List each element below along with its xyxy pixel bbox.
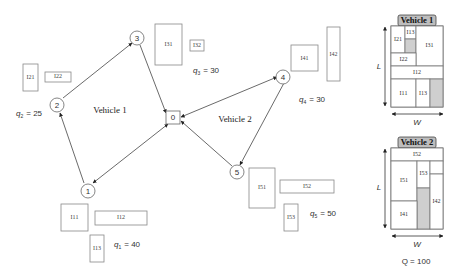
demand-label-4: q4= 30 (299, 95, 326, 105)
pack-item: I11 (400, 90, 408, 96)
edge-0-4 (181, 77, 277, 117)
pack-item: I12 (413, 69, 421, 75)
customer-node-1[interactable]: 1 (81, 184, 95, 198)
route-label-vehicle-1: Vehicle 1 (93, 105, 127, 115)
pack-item: I31 (426, 42, 434, 48)
demand-label-5: q5= 50 (310, 209, 337, 219)
item-label: I51 (258, 184, 266, 190)
node-label: 5 (235, 168, 240, 177)
empty-space (417, 188, 430, 229)
node-label: 4 (281, 73, 286, 82)
width-label: W (413, 118, 422, 127)
edge-4-5 (240, 83, 284, 165)
demand-label-1: q1= 40 (114, 240, 141, 250)
edge-0-1 (93, 124, 168, 183)
customer-4-items: I41 I42 (291, 27, 340, 81)
node-label: 3 (135, 34, 140, 43)
item-label: I12 (117, 214, 125, 220)
empty-space (405, 39, 416, 53)
customer-1-items: I11 I12 I13 (61, 204, 147, 262)
item-label: I53 (287, 214, 295, 220)
customer-3-items: I31 I32 (155, 24, 204, 65)
route-label-vehicle-2: Vehicle 2 (218, 114, 252, 124)
item-label: I31 (165, 41, 173, 47)
item-label: I13 (93, 245, 101, 251)
item-label: I22 (54, 73, 62, 79)
pack-item: I51 (400, 177, 408, 183)
customer-node-4[interactable]: 4 (276, 70, 290, 84)
item-label: I41 (301, 55, 309, 61)
customer-2-items: I21 I22 (23, 64, 71, 91)
edge-1-2 (60, 113, 84, 183)
pack-item: I41 (400, 211, 408, 217)
width-label: W (413, 240, 422, 249)
item-label: I42 (330, 51, 338, 57)
vehicle-2-loading: Vehicle 2 I52 I51 I53 I42 I41 L W (377, 137, 443, 249)
length-label: L (377, 183, 381, 192)
vehicle-1-title: Vehicle 1 (401, 15, 434, 25)
item-label: I21 (27, 74, 35, 80)
customer-node-5[interactable]: 5 (230, 165, 244, 179)
pack-item: I52 (413, 151, 421, 157)
empty-space (430, 79, 443, 107)
pack-item: I42 (433, 198, 441, 204)
item-label: I11 (71, 214, 79, 220)
pack-item: I13 (407, 29, 415, 35)
pack-item: I53 (420, 170, 428, 176)
pack-item: I13 (419, 90, 427, 96)
node-label: 1 (86, 187, 91, 196)
capacity-label: Q = 100 (402, 257, 431, 266)
vehicle-2-title: Vehicle 2 (401, 137, 434, 147)
item-label: I52 (303, 183, 311, 189)
customer-node-2[interactable]: 2 (50, 98, 64, 112)
edge-5-0 (181, 121, 232, 166)
depot-label: 0 (171, 113, 176, 122)
item-label: I32 (193, 42, 201, 48)
length-label: L (377, 62, 381, 71)
customer-node-3[interactable]: 3 (130, 31, 144, 45)
demand-label-3: q3= 30 (193, 66, 220, 76)
pack-item: I21 (394, 36, 402, 42)
depot-node[interactable]: 0 (166, 111, 180, 124)
routing-diagram: Vehicle 1 Vehicle 2 0 1 2 3 4 5 I21 I22 … (0, 0, 464, 276)
customer-5-items: I51 I52 I53 (249, 168, 334, 231)
demand-label-2: q2= 25 (16, 109, 43, 119)
edge-2-3 (63, 43, 132, 98)
vehicle-1-loading: Vehicle 1 I21 I13 I31 I22 I12 I11 I13 L … (377, 15, 443, 127)
pack-item: I22 (400, 56, 408, 62)
node-label: 2 (55, 101, 60, 110)
